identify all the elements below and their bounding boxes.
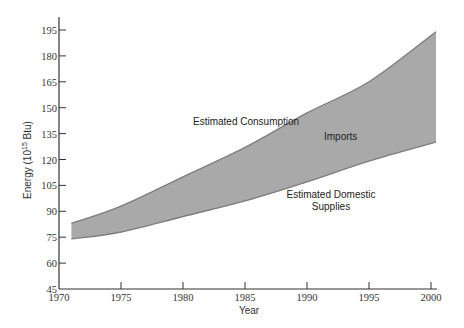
y-tick-label: 75: [47, 232, 58, 243]
y-tick-label: 180: [41, 51, 57, 62]
imports-band: [71, 32, 436, 239]
y-axis-title: Energy (1015 Btu): [21, 121, 33, 199]
domestic-label-line1: Estimated Domestic: [287, 189, 376, 200]
x-tick-label: 1985: [235, 292, 256, 303]
x-ticks: 1970197519801985199019952000: [49, 282, 442, 303]
x-tick-label: 1975: [111, 292, 132, 303]
x-tick-label: 2000: [421, 292, 442, 303]
x-axis-title: Year: [239, 305, 260, 316]
energy-chart: 45607590105120135150165180195 1970197519…: [0, 0, 464, 328]
y-tick-label: 135: [41, 129, 57, 140]
imports-label: Imports: [324, 131, 357, 142]
y-tick-label: 90: [47, 206, 58, 217]
domestic-label-line2: Supplies: [312, 201, 350, 212]
y-tick-label: 105: [41, 180, 57, 191]
x-tick-label: 1990: [297, 292, 318, 303]
x-tick-label: 1970: [49, 292, 70, 303]
y-tick-label: 120: [41, 155, 57, 166]
x-tick-label: 1980: [173, 292, 194, 303]
y-ticks: 45607590105120135150165180195: [41, 25, 66, 295]
y-tick-label: 195: [41, 25, 57, 36]
imports-area: [71, 32, 436, 239]
y-tick-label: 60: [47, 258, 58, 269]
x-tick-label: 1995: [359, 292, 380, 303]
y-tick-label: 150: [41, 103, 57, 114]
y-tick-label: 165: [41, 77, 57, 88]
consumption-label: Estimated Consumption: [193, 116, 299, 127]
